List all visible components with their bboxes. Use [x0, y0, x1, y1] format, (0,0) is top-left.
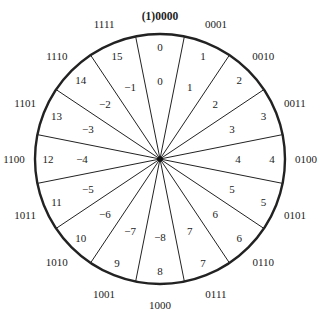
signed-value: 5	[229, 183, 235, 195]
hub-point	[157, 156, 162, 161]
binary-label: 0010	[252, 50, 275, 62]
unsigned-value: 15	[112, 50, 124, 62]
signed-value: 2	[212, 98, 218, 110]
binary-label: 1111	[94, 18, 115, 30]
signed-value: 7	[187, 225, 193, 237]
binary-label: 1110	[46, 50, 68, 62]
signed-value: 0	[157, 75, 163, 87]
binary-label: 1001	[93, 288, 115, 300]
binary-label: 1010	[46, 256, 69, 268]
signed-value: 6	[212, 208, 218, 220]
binary-label: 1000	[149, 299, 172, 311]
signed-value: −7	[124, 225, 136, 237]
signed-value: −4	[76, 153, 88, 165]
signed-value: −8	[154, 231, 166, 243]
signed-value: 1	[187, 81, 193, 93]
unsigned-value: 13	[51, 110, 63, 122]
unsigned-value: 12	[43, 153, 54, 165]
unsigned-value: 11	[51, 196, 62, 208]
signed-value: −2	[99, 98, 111, 110]
binary-label: 0001	[205, 18, 227, 30]
binary-label: 1100	[3, 153, 25, 165]
unsigned-value: 8	[157, 265, 163, 277]
binary-label: 0100	[295, 153, 318, 165]
unsigned-value: 14	[75, 74, 87, 86]
binary-label: 0110	[252, 256, 274, 268]
binary-label: 0111	[205, 288, 226, 300]
unsigned-value: 2	[236, 74, 242, 86]
signed-value: −3	[82, 123, 94, 135]
signed-value: 4	[235, 153, 241, 165]
binary-label: 0011	[284, 97, 306, 109]
unsigned-value: 0	[157, 41, 163, 53]
unsigned-value: 9	[114, 257, 120, 269]
unsigned-value: 5	[261, 196, 267, 208]
unsigned-value: 7	[200, 257, 206, 269]
unsigned-value: 1	[200, 50, 206, 62]
binary-label: (1)0000	[142, 10, 179, 23]
signed-value: −5	[82, 183, 94, 195]
twos-complement-wheel: (1)0000000001110010220011330100440101550…	[0, 0, 321, 316]
binary-label: 0101	[284, 209, 306, 221]
signed-value: −6	[99, 208, 111, 220]
signed-value: −1	[124, 81, 136, 93]
unsigned-value: 4	[269, 153, 275, 165]
unsigned-value: 3	[261, 110, 267, 122]
binary-label: 1101	[14, 97, 36, 109]
unsigned-value: 10	[75, 232, 87, 244]
unsigned-value: 6	[236, 232, 242, 244]
signed-value: 3	[229, 123, 235, 135]
binary-label: 1011	[14, 209, 36, 221]
